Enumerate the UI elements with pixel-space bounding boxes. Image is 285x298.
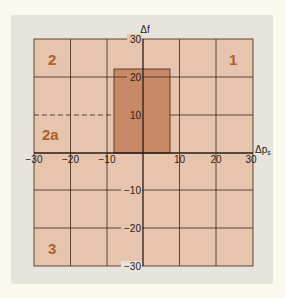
svg-text:30: 30 [130, 34, 142, 45]
region-1-label: 1 [229, 51, 237, 68]
svg-text:20: 20 [210, 154, 222, 165]
svg-text:−30: −30 [124, 261, 141, 272]
svg-text:20: 20 [130, 72, 142, 83]
region-2-label: 2 [48, 51, 56, 68]
region-3-label: 3 [48, 240, 56, 257]
region-2a-label: 2a [42, 126, 59, 143]
svg-text:30: 30 [245, 154, 257, 165]
svg-text:−20: −20 [62, 154, 79, 165]
svg-text:10: 10 [174, 154, 186, 165]
svg-text:−10: −10 [124, 185, 141, 196]
diagram: 30 20 10 −10 −20 −30 −30 −20 −10 10 20 3… [0, 0, 285, 298]
x-axis-title: Δps [255, 144, 271, 156]
svg-text:−10: −10 [99, 154, 116, 165]
svg-text:−20: −20 [124, 223, 141, 234]
svg-text:−30: −30 [26, 154, 43, 165]
y-axis-title: Δf [140, 24, 150, 35]
svg-text:10: 10 [130, 110, 142, 121]
